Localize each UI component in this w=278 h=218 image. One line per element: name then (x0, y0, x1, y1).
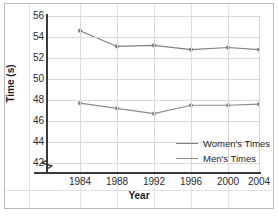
chart-legend: Women's Times Men's Times (176, 136, 272, 166)
y-tick-label: 56 (26, 11, 44, 21)
x-tick-label: 1996 (171, 176, 211, 187)
series-line (80, 31, 259, 50)
gridline-1984 (80, 16, 81, 173)
y-axis (46, 14, 48, 173)
y-tick-label: 46 (26, 116, 44, 126)
x-axis (34, 172, 261, 174)
y-tick-label: 54 (26, 32, 44, 42)
x-tick-label: 1988 (97, 176, 137, 187)
gridline-1988 (117, 16, 118, 173)
y-tick-labels: 4244464850525456 (24, 0, 44, 218)
legend-item-women: Women's Times (176, 136, 272, 151)
y-tick-label: 52 (26, 53, 44, 63)
x-tick-label: 2004 (239, 176, 278, 187)
y-tick-label: 48 (26, 95, 44, 105)
x-tick-label: 1992 (134, 176, 174, 187)
series-line (80, 103, 259, 114)
legend-item-men: Men's Times (176, 151, 272, 166)
legend-swatch-icon (176, 143, 198, 144)
y-tick-label: 42 (26, 158, 44, 168)
legend-label: Women's Times (203, 138, 270, 149)
x-axis-title: Year (0, 190, 278, 201)
legend-label: Men's Times (203, 153, 256, 164)
y-axis-title: Time (s) (5, 52, 16, 116)
x-tick-label: 1984 (60, 176, 100, 187)
gridline-1992 (154, 16, 155, 173)
y-tick-label: 50 (26, 74, 44, 84)
y-tick-label: 44 (26, 137, 44, 147)
legend-swatch-icon (176, 158, 198, 159)
chart-figure: 4244464850525456 19841988199219962000200… (0, 0, 278, 218)
